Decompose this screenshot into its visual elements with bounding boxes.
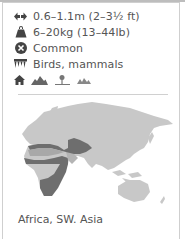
grassland-icon — [77, 77, 91, 84]
teeth-diet-icon — [14, 58, 27, 70]
fact-diet: Birds, mammals — [14, 56, 140, 72]
length-arrows-icon — [14, 10, 27, 22]
range-caption: Africa, SW. Asia — [18, 213, 103, 226]
divider — [18, 94, 168, 95]
fact-status: Common — [14, 40, 140, 56]
fact-length: 0.6–1.1m (2–3½ ft) — [14, 8, 140, 24]
mountains-icon — [31, 76, 48, 85]
range-map — [8, 98, 178, 206]
fact-weight-text: 6–20kg (13–44lb) — [33, 26, 130, 39]
house-icon — [14, 75, 25, 85]
fact-length-text: 0.6–1.1m (2–3½ ft) — [33, 10, 140, 23]
fact-status-text: Common — [33, 42, 83, 55]
australia-landmass — [118, 180, 150, 202]
facts-list: 0.6–1.1m (2–3½ ft) 6–20kg (13–44lb) Comm… — [14, 8, 140, 86]
desert-tree-icon — [54, 75, 71, 85]
habitat-icons — [14, 74, 140, 86]
fact-weight: 6–20kg (13–44lb) — [14, 24, 140, 40]
fact-diet-text: Birds, mammals — [33, 58, 123, 71]
weight-icon — [14, 26, 27, 38]
status-icon — [14, 42, 27, 54]
